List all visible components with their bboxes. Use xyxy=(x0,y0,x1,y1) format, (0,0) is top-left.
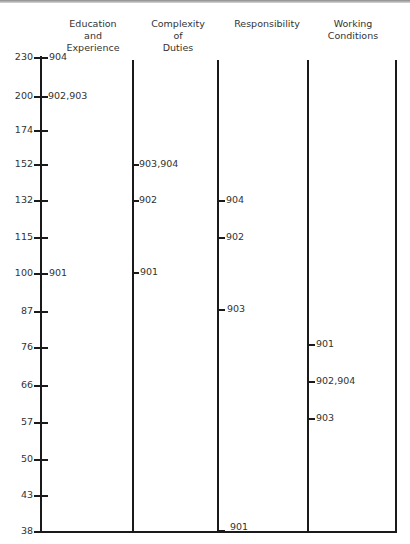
tick-mark xyxy=(219,309,225,311)
job-label: 901 xyxy=(140,266,158,277)
job-label: 902,904 xyxy=(316,375,355,386)
job-label: 902 xyxy=(226,231,244,242)
job-label: 902 xyxy=(139,194,157,205)
tick-mark xyxy=(34,347,48,349)
job-label: 901 xyxy=(49,267,67,278)
tick-label: 200 xyxy=(0,90,33,101)
job-label: 903,904 xyxy=(139,158,178,169)
tick-mark xyxy=(34,200,48,202)
tick-mark xyxy=(34,311,48,313)
tick-mark xyxy=(309,344,315,346)
tick-mark xyxy=(219,530,225,532)
job-label: 904 xyxy=(226,194,244,205)
tick-mark xyxy=(219,200,225,202)
tick-mark xyxy=(34,273,48,275)
column-divider-1 xyxy=(132,60,134,533)
job-label: 902,903 xyxy=(48,90,87,101)
tick-label: 87 xyxy=(0,305,33,316)
job-label: 901 xyxy=(230,521,248,532)
tick-mark xyxy=(34,96,48,98)
tick-mark xyxy=(34,164,48,166)
tick-mark xyxy=(133,272,139,274)
tick-mark xyxy=(309,418,315,420)
tick-mark xyxy=(34,237,48,239)
tick-label: 174 xyxy=(0,124,33,135)
header-education-experience: Education and Experience xyxy=(48,18,138,54)
header-working-conditions: Working Conditions xyxy=(310,18,396,42)
tick-label: 152 xyxy=(0,158,33,169)
tick-mark xyxy=(219,237,225,239)
scale-axis xyxy=(40,56,42,533)
column-divider-3 xyxy=(307,60,309,533)
tick-label: 76 xyxy=(0,341,33,352)
header-complexity-duties: Complexity of Duties xyxy=(138,18,218,54)
job-label: 901 xyxy=(316,338,334,349)
tick-label: 43 xyxy=(0,489,33,500)
tick-mark xyxy=(34,495,48,497)
tick-label: 115 xyxy=(0,231,33,242)
header-responsibility: Responsibility xyxy=(222,18,312,30)
job-label: 903 xyxy=(316,412,334,423)
tick-mark xyxy=(309,381,315,383)
tick-mark xyxy=(34,531,42,533)
tick-mark xyxy=(34,57,48,59)
tick-label: 50 xyxy=(0,453,33,464)
tick-label: 230 xyxy=(0,51,33,62)
tick-label: 38 xyxy=(0,525,33,536)
column-divider-2 xyxy=(217,60,219,533)
tick-label: 100 xyxy=(0,267,33,278)
tick-label: 66 xyxy=(0,379,33,390)
tick-mark xyxy=(34,130,48,132)
column-divider-4 xyxy=(395,60,397,533)
tick-label: 57 xyxy=(0,416,33,427)
tick-mark xyxy=(34,385,48,387)
tick-label: 132 xyxy=(0,194,33,205)
top-border xyxy=(0,0,410,3)
job-label: 903 xyxy=(227,303,245,314)
tick-mark xyxy=(34,459,48,461)
tick-mark xyxy=(34,422,48,424)
job-label: 904 xyxy=(49,51,67,62)
